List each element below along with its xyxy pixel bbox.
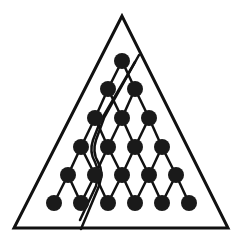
lattice-node	[100, 195, 116, 211]
lattice-node	[73, 139, 89, 155]
lattice-node	[181, 195, 197, 211]
lattice-node	[154, 195, 170, 211]
lattice-node	[100, 81, 116, 97]
lattice-node	[154, 139, 170, 155]
lattice-nodes	[46, 53, 197, 211]
lattice-node	[87, 110, 103, 126]
lattice-node	[127, 81, 143, 97]
lattice-node	[46, 195, 62, 211]
lattice-node	[114, 167, 130, 183]
lattice-node	[141, 110, 157, 126]
lattice-node	[114, 53, 130, 69]
lattice-node	[141, 167, 157, 183]
lattice-node	[60, 167, 76, 183]
lattice-node	[168, 167, 184, 183]
lattice-node	[100, 139, 116, 155]
lattice-node	[127, 139, 143, 155]
lattice-node	[73, 195, 89, 211]
triangle-lattice-diagram	[0, 0, 244, 243]
lattice-node	[114, 110, 130, 126]
lattice-node	[87, 167, 103, 183]
lattice-node	[127, 195, 143, 211]
